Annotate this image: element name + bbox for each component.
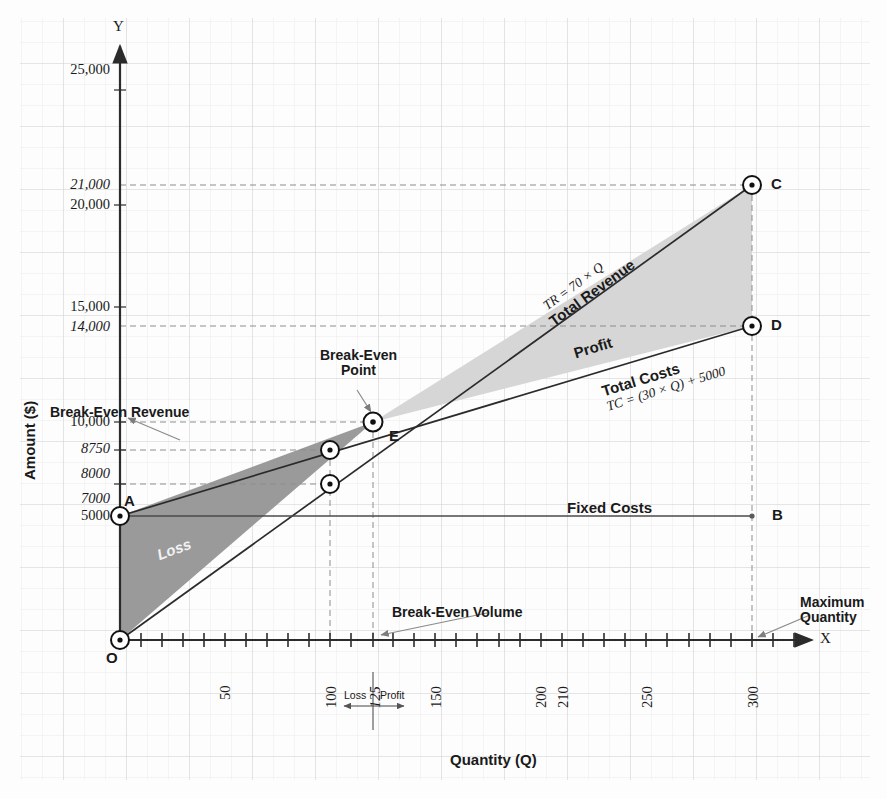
x-tick-150: 150 (429, 686, 445, 708)
maximum-quantity-line2: Quantity (800, 610, 865, 625)
point-label-B: B (772, 507, 783, 524)
y-tick-14000: 14,000 (28, 319, 110, 335)
maximum-quantity-line1: Maximum (800, 595, 865, 610)
y-tick-21000: 21,000 (28, 177, 110, 193)
maximum-quantity-callout: Maximum Quantity (800, 595, 865, 626)
y-tick-15000: 15,000 (28, 299, 110, 315)
point-label-D: D (771, 317, 782, 334)
break-even-point-line1: Break-Even (320, 348, 397, 363)
break-even-volume-callout: Break-Even Volume (392, 605, 522, 620)
break-even-revenue-callout: Break-Even Revenue (50, 405, 189, 420)
x-tick-0: O (106, 650, 118, 667)
point-label-C: C (771, 176, 782, 193)
break-even-point-callout: Break-Even Point (320, 348, 397, 379)
x-tick-200: 200 (534, 686, 550, 708)
profit-marker-label: Profit (380, 690, 405, 702)
fixed-costs-label: Fixed Costs (567, 500, 652, 517)
y-tick-7000: 7000 (28, 491, 110, 507)
loss-marker-label: Loss (344, 690, 366, 702)
x-tick-50: 50 (218, 686, 234, 701)
break-even-chart: Y X Amount ($) Quantity (Q) 25,000 21,00… (0, 0, 887, 799)
break-even-point-line2: Point (320, 363, 397, 378)
chart-canvas (0, 0, 887, 799)
point-label-E: E (389, 428, 399, 445)
y-tick-25000: 25,000 (28, 62, 110, 78)
x-tick-100: 100 (324, 686, 340, 708)
x-tick-250: 250 (640, 686, 656, 708)
x-axis-name: X (820, 630, 831, 647)
point-label-A: A (124, 493, 135, 510)
y-tick-20000: 20,000 (28, 197, 110, 213)
y-tick-8750: 8750 (28, 441, 110, 457)
x-axis-title: Quantity (Q) (450, 752, 537, 769)
y-tick-8000: 8000 (28, 466, 110, 482)
x-tick-210: 210 (556, 686, 572, 708)
y-tick-5000: 5000 (28, 508, 110, 524)
x-tick-300: 300 (746, 686, 762, 708)
y-axis-name: Y (113, 18, 124, 35)
